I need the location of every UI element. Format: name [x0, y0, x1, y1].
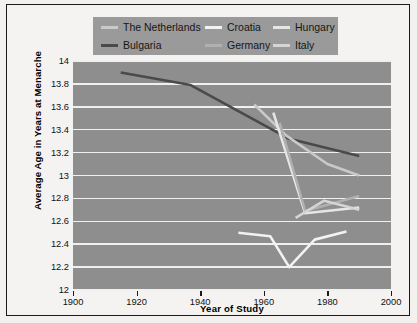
legend-item-the-netherlands[interactable]: The Netherlands [101, 18, 201, 37]
y-tick-label: 13 [35, 171, 69, 181]
x-tick-label: 1920 [117, 297, 157, 307]
x-tick-mark [73, 291, 74, 296]
x-tick-label: 2000 [371, 297, 411, 307]
chart-page: The NetherlandsCroatiaHungary BulgariaGe… [0, 0, 417, 323]
y-tick-label: 14 [35, 56, 69, 66]
y-tick-label: 12 [35, 285, 69, 295]
legend-item-germany[interactable]: Germany [205, 36, 270, 55]
y-tick-label: 13.6 [35, 102, 69, 112]
legend-item-label: Bulgaria [123, 40, 162, 51]
legend-item-label: Croatia [227, 22, 261, 33]
y-tick-label: 12.2 [35, 262, 69, 272]
legend-item-label: Germany [227, 40, 270, 51]
legend-swatch-icon [205, 26, 222, 29]
legend-swatch-icon [273, 44, 290, 47]
series-line-germany [280, 123, 360, 211]
y-axis-ticks: 1212.212.412.612.81313.213.413.613.814 [31, 61, 69, 290]
x-tick-mark [200, 291, 201, 296]
legend-item-label: The Netherlands [123, 22, 201, 33]
x-tick-mark [327, 291, 328, 296]
x-tick-mark [137, 291, 138, 296]
y-tick-label: 12.4 [35, 239, 69, 249]
y-tick-label: 13.8 [35, 79, 69, 89]
legend-item-label: Italy [295, 40, 314, 51]
y-tick-label: 12.8 [35, 193, 69, 203]
legend-swatch-icon [273, 26, 290, 29]
chart-legend: The NetherlandsCroatiaHungary BulgariaGe… [93, 17, 338, 55]
legend-item-bulgaria[interactable]: Bulgaria [101, 36, 162, 55]
y-tick-label: 12.6 [35, 216, 69, 226]
x-tick-mark [264, 291, 265, 296]
legend-item-label: Hungary [295, 22, 335, 33]
series-lines [73, 61, 391, 290]
plot-area [73, 61, 391, 290]
x-axis-ticks: 190019201940196019802000 [73, 291, 391, 311]
chart-frame: The NetherlandsCroatiaHungary BulgariaGe… [6, 4, 410, 316]
y-tick-label: 13.2 [35, 148, 69, 158]
legend-row: The NetherlandsCroatiaHungary [93, 18, 338, 37]
series-line-croatia [238, 232, 346, 267]
x-tick-label: 1900 [53, 297, 93, 307]
legend-item-croatia[interactable]: Croatia [205, 18, 261, 37]
series-line-the-netherlands [254, 105, 359, 176]
series-line-hungary [273, 113, 359, 214]
x-tick-label: 1960 [244, 297, 284, 307]
x-tick-label: 1980 [307, 297, 347, 307]
legend-swatch-icon [101, 44, 118, 47]
x-tick-mark [391, 291, 392, 296]
legend-swatch-icon [101, 26, 118, 29]
legend-row: BulgariaGermanyItaly [93, 36, 338, 55]
y-tick-label: 13.4 [35, 125, 69, 135]
legend-item-hungary[interactable]: Hungary [273, 18, 335, 37]
x-tick-label: 1940 [180, 297, 220, 307]
legend-item-italy[interactable]: Italy [273, 36, 314, 55]
legend-swatch-icon [205, 44, 222, 47]
series-line-bulgaria [121, 72, 360, 156]
